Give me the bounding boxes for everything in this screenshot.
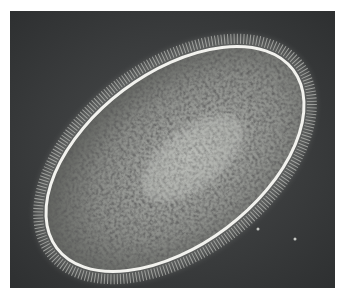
ciliate-cell-illustration — [10, 11, 335, 288]
micrograph-frame — [10, 11, 335, 288]
